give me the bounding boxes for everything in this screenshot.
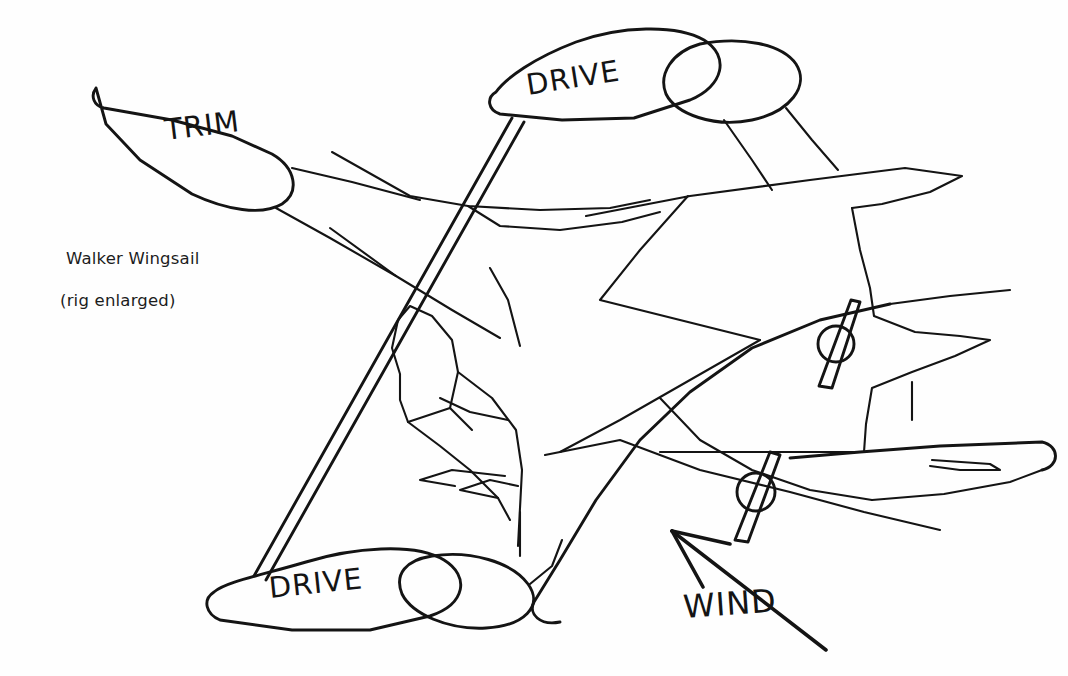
trim-foil: [93, 88, 420, 276]
caption-line-2: (rig enlarged): [60, 291, 176, 310]
near-wing-root: [392, 306, 522, 546]
far-wing-root: [330, 152, 660, 338]
upper-drive-strut-b: [786, 108, 838, 170]
upper-drive-flap: [664, 41, 801, 122]
propeller-near: [735, 452, 780, 542]
trim-label: TRIM: [162, 104, 242, 147]
far-wing: [560, 168, 990, 452]
wingsail-drawing: TRIM DRIVE DRIVE: [0, 0, 1068, 676]
upper-drive-strut-a: [724, 120, 772, 190]
wind-label: WIND: [682, 582, 778, 626]
near-wing: [545, 398, 1042, 530]
fuselage: [532, 290, 1055, 623]
upper-drive-label: DRIVE: [524, 54, 622, 102]
illustration-canvas: TRIM DRIVE DRIVE: [0, 0, 1068, 676]
caption-line-1: Walker Wingsail: [66, 249, 199, 268]
